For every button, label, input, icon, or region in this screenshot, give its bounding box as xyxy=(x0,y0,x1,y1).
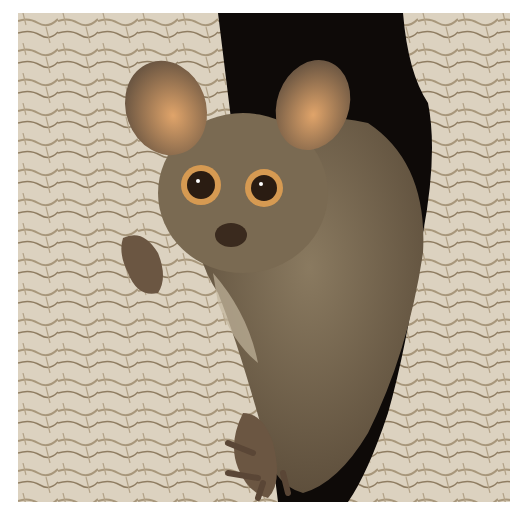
bushbaby-photo xyxy=(18,13,510,502)
photo xyxy=(18,13,510,502)
